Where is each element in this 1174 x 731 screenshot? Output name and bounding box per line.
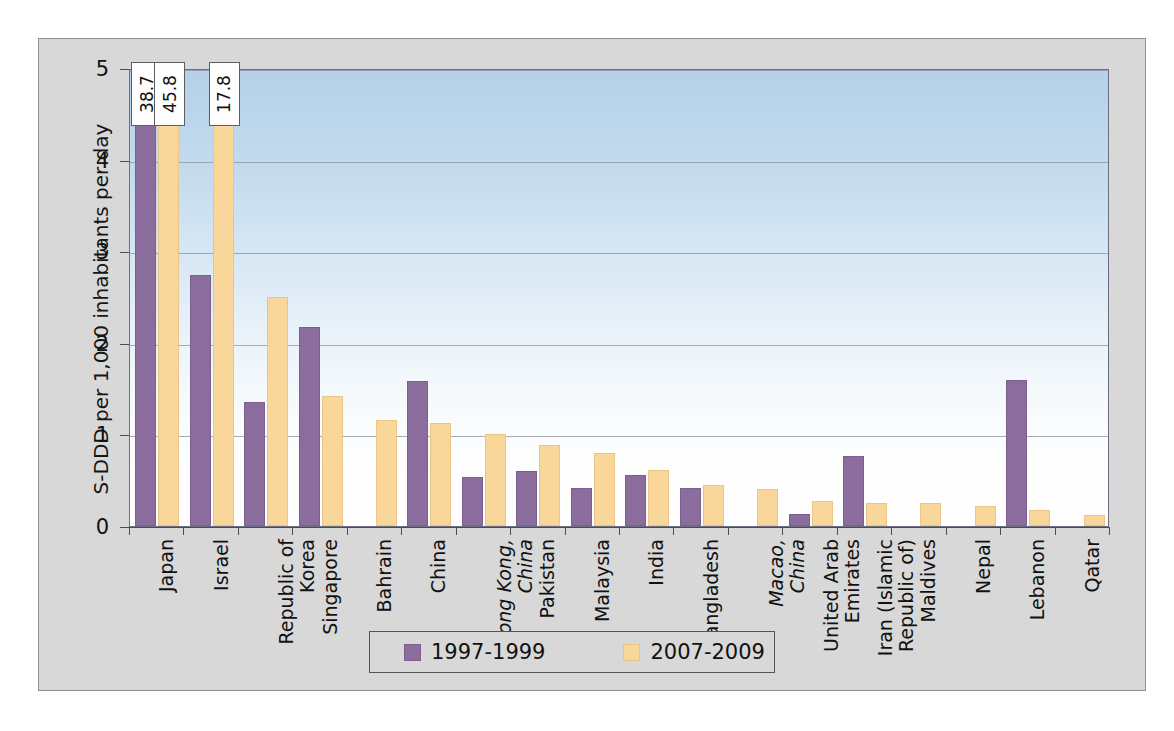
x-axis-tick — [837, 527, 838, 535]
bar-1997-1999 — [1006, 380, 1027, 526]
bar-1997-1999 — [462, 477, 483, 526]
x-axis-category-label: United ArabEmirates — [821, 539, 863, 689]
bar-1997-1999 — [190, 275, 211, 526]
bar-2007-2009 — [539, 445, 560, 526]
bar-2007-2009 — [213, 68, 234, 526]
y-axis-tick — [120, 252, 129, 253]
y-axis-tick — [120, 435, 129, 436]
legend-item: 1997-1999 — [404, 640, 545, 664]
x-axis-category-label: Nepal — [973, 539, 994, 689]
legend-label: 2007-2009 — [650, 640, 764, 664]
x-axis-tick — [891, 527, 892, 535]
x-axis-category-line: China — [787, 539, 808, 689]
plot-area: 38.745.817.8 — [129, 69, 1109, 527]
x-axis-category-label: Japan — [156, 539, 177, 689]
bar-2007-2009 — [430, 423, 451, 527]
bar-1997-1999 — [244, 402, 265, 526]
bar-1997-1999 — [680, 488, 701, 526]
bar-1997-1999 — [789, 514, 810, 526]
x-axis-category-line: Israel — [211, 539, 232, 689]
y-axis-tick — [120, 161, 129, 162]
x-axis-tick — [292, 527, 293, 535]
x-axis-tick — [456, 527, 457, 535]
bar-2007-2009 — [322, 396, 343, 526]
x-axis-tick — [728, 527, 729, 535]
x-axis-tick — [619, 527, 620, 535]
bar-1997-1999 — [843, 456, 864, 526]
bar-2007-2009 — [376, 420, 397, 526]
bar-1997-1999 — [407, 381, 428, 526]
legend-color-swatch — [404, 644, 421, 661]
x-axis-category-line: Singapore — [320, 539, 341, 689]
y-axis-tick-label: 1 — [73, 423, 109, 447]
x-axis-category-line: Emirates — [842, 539, 863, 689]
bar-1997-1999 — [135, 68, 156, 526]
x-axis-tick — [401, 527, 402, 535]
x-axis-category-line: Japan — [156, 539, 177, 689]
bar-2007-2009 — [757, 489, 778, 526]
x-axis-category-line: Republic of — [276, 539, 297, 689]
bar-2007-2009 — [158, 68, 179, 526]
x-axis-category-line: Iran (Islamic — [875, 539, 896, 689]
y-axis-tick — [120, 69, 129, 70]
legend-item: 2007-2009 — [623, 640, 764, 664]
y-axis-tick-label: 3 — [73, 240, 109, 264]
x-axis-category-line: Lebanon — [1027, 539, 1048, 689]
legend-label: 1997-1999 — [431, 640, 545, 664]
x-axis-tick — [782, 527, 783, 535]
bar-1997-1999 — [571, 488, 592, 526]
x-axis-category-label: Israel — [211, 539, 232, 689]
x-axis-category-line: Nepal — [973, 539, 994, 689]
bar-2007-2009 — [1029, 510, 1050, 526]
bar-2007-2009 — [975, 506, 996, 526]
bar-1997-1999 — [299, 327, 320, 526]
bar-2007-2009 — [648, 470, 669, 526]
legend-color-swatch — [623, 644, 640, 661]
x-axis-tick — [946, 527, 947, 535]
bar-2007-2009 — [703, 485, 724, 526]
x-axis-category-line: Republic of) — [896, 539, 917, 689]
chart-legend: 1997-19992007-2009 — [369, 631, 775, 673]
bar-2007-2009 — [594, 453, 615, 526]
bar-2007-2009 — [1084, 515, 1105, 526]
x-axis-tick — [347, 527, 348, 535]
x-axis-tick — [510, 527, 511, 535]
y-axis-tick — [120, 527, 129, 528]
y-axis-tick-label: 0 — [73, 515, 109, 539]
bar-2007-2009 — [866, 503, 887, 526]
x-axis-tick — [565, 527, 566, 535]
x-axis-category-label: Qatar — [1082, 539, 1103, 689]
y-axis-tick-label: 5 — [73, 57, 109, 81]
bar-value-label: 17.8 — [214, 75, 234, 113]
x-axis-category-label: Singapore — [320, 539, 341, 689]
x-axis-category-line: Maldives — [918, 539, 939, 689]
chart-figure: S-DDD per 1,000 inhabitants per day 38.7… — [38, 38, 1146, 691]
x-axis-category-line: Qatar — [1082, 539, 1103, 689]
x-axis-category-line: United Arab — [821, 539, 842, 689]
x-axis-tick — [1109, 527, 1110, 535]
bar-2007-2009 — [267, 297, 288, 526]
x-axis-tick — [1055, 527, 1056, 535]
x-axis-tick — [673, 527, 674, 535]
x-axis-tick — [1000, 527, 1001, 535]
y-axis-tick — [120, 344, 129, 345]
bar-2007-2009 — [812, 501, 833, 526]
y-axis-tick-label: 2 — [73, 332, 109, 356]
x-axis-category-label: Maldives — [918, 539, 939, 689]
bar-1997-1999 — [516, 471, 537, 526]
x-axis-tick — [238, 527, 239, 535]
x-axis-category-label: Republic ofKorea — [276, 539, 318, 689]
x-axis-category-line: Korea — [297, 539, 318, 689]
x-axis-category-label: Lebanon — [1027, 539, 1048, 689]
bar-value-label: 45.8 — [160, 75, 180, 113]
x-axis-tick — [129, 527, 130, 535]
bar-value-callout: 17.8 — [209, 62, 240, 126]
bar-1997-1999 — [625, 475, 646, 526]
bar-2007-2009 — [485, 434, 506, 526]
bar-series-container: 38.745.817.8 — [130, 70, 1108, 526]
bar-2007-2009 — [920, 503, 941, 526]
bar-value-callout: 45.8 — [154, 62, 185, 126]
y-axis-tick-label: 4 — [73, 149, 109, 173]
x-axis-tick — [183, 527, 184, 535]
x-axis-category-label: Iran (IslamicRepublic of) — [875, 539, 917, 689]
